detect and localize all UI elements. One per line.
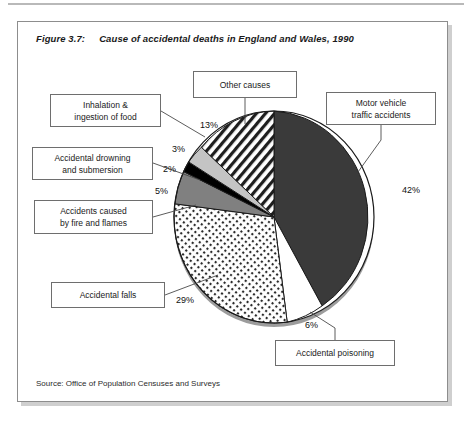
callout-accidental-falls-label: Accidental falls [80,289,137,301]
callout-other-causes[interactable]: Other causes [193,71,297,98]
callout-motor-vehicle[interactable]: Motor vehicle traffic accidents [326,92,436,125]
callout-motor-vehicle-label: Motor vehicle traffic accidents [352,97,411,121]
pct-label-inhalation: 3% [172,144,185,154]
pie-slice-falls [174,204,287,323]
callout-accidental-falls[interactable]: Accidental falls [51,282,165,308]
callout-accidental-poisoning-label: Accidental poisoning [296,347,374,359]
pie-svg [170,105,385,335]
callout-inhalation[interactable]: Inhalation & ingestion of food [50,94,161,127]
pct-label-other-causes: 13% [200,120,218,130]
figure-number: Figure 3.7: [36,33,85,44]
pie-chart [170,105,385,335]
callout-fire-and-flames[interactable]: Accidents caused by fire and flames [34,200,153,234]
top-rule [8,3,464,5]
pct-label-accidental-falls: 29% [176,295,194,305]
figure-title-text: Cause of accidental deaths in England an… [99,33,354,44]
pct-label-motor-vehicle: 42% [402,185,420,195]
pct-label-drowning: 2% [163,164,176,174]
pct-label-accidental-poisoning: 6% [305,320,318,330]
figure-title: Figure 3.7:Cause of accidental deaths in… [36,33,354,44]
figure-page: Figure 3.7:Cause of accidental deaths in… [0,0,472,427]
callout-drowning[interactable]: Accidental drowning and submersion [32,147,153,180]
callout-fire-and-flames-label: Accidents caused by fire and flames [60,205,127,229]
callout-other-causes-label: Other causes [220,79,271,91]
callout-accidental-poisoning[interactable]: Accidental poisoning [275,340,395,366]
figure-source: Source: Office of Population Censuses an… [36,379,220,388]
callout-inhalation-label: Inhalation & ingestion of food [74,99,136,123]
pct-label-fire-and-flames: 5% [155,186,168,196]
callout-drowning-label: Accidental drowning and submersion [54,152,130,176]
